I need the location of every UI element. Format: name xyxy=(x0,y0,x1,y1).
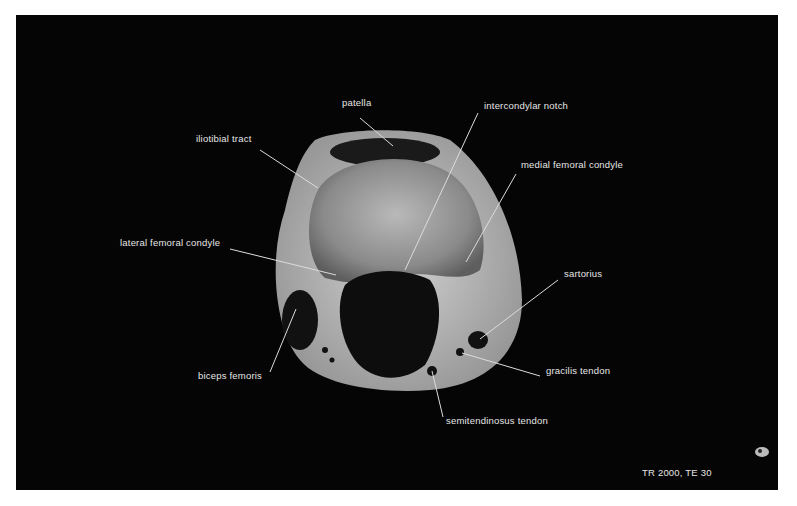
label-gracilis-tendon: gracilis tendon xyxy=(546,365,610,376)
label-medial-femoral-condyle: medial femoral condyle xyxy=(521,159,623,170)
knee-axial-mri-scan xyxy=(0,0,797,506)
label-biceps-femoris: biceps femoris xyxy=(198,370,262,381)
label-iliotibial-tract: iliotibial tract xyxy=(196,133,251,144)
sequence-caption: TR 2000, TE 30 xyxy=(642,467,712,478)
label-intercondylar-notch: intercondylar notch xyxy=(484,100,568,111)
label-lateral-femoral-condyle: lateral femoral condyle xyxy=(120,237,220,248)
label-patella: patella xyxy=(342,97,371,108)
label-semitendinosus-tendon: semitendinosus tendon xyxy=(446,415,548,426)
label-sartorius: sartorius xyxy=(564,268,602,279)
orientation-marker-icon xyxy=(755,447,769,457)
